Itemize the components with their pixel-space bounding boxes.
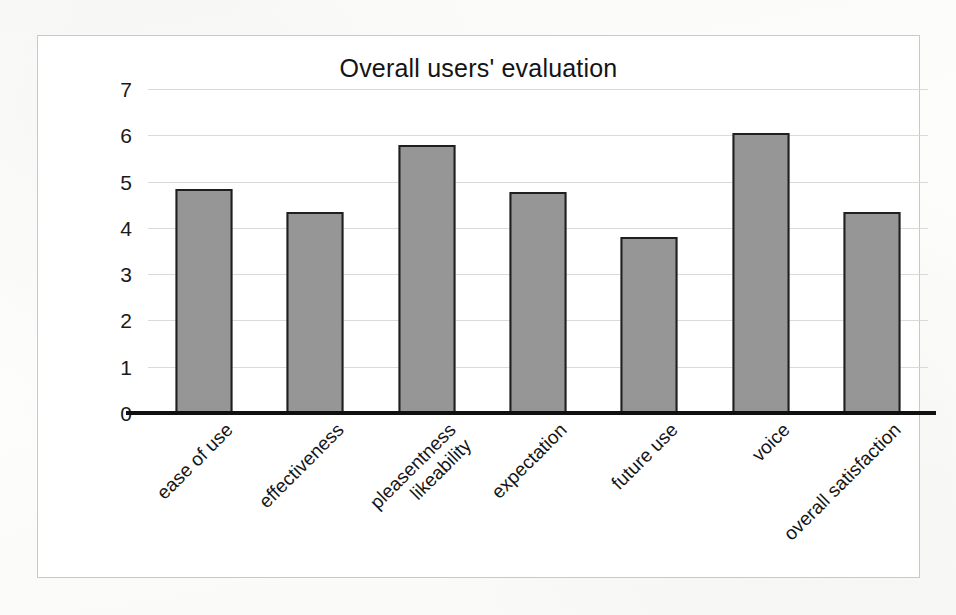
y-axis-tick-label: 3 bbox=[120, 264, 132, 285]
x-axis-category-labels: ease of useeffectivenesspleasentnesslike… bbox=[148, 413, 928, 573]
x-axis-category-label-line: effectiveness bbox=[255, 419, 348, 512]
x-axis-category-label-line: ease of use bbox=[152, 419, 236, 503]
chart-frame: Overall users' evaluation 76543210 ease … bbox=[37, 35, 920, 578]
bar bbox=[621, 237, 678, 413]
bar-slot bbox=[482, 89, 593, 413]
bar-slot bbox=[594, 89, 705, 413]
y-axis-tick-label: 2 bbox=[120, 310, 132, 331]
bar-slot bbox=[817, 89, 928, 413]
x-axis-category-label: voice bbox=[747, 419, 794, 466]
chart-title: Overall users' evaluation bbox=[38, 54, 919, 83]
y-axis-tick-label: 5 bbox=[120, 171, 132, 192]
x-axis-category-label: effectiveness bbox=[255, 419, 349, 513]
bar bbox=[287, 212, 344, 413]
x-axis-category-label: overall satisfaction bbox=[780, 419, 906, 545]
bar bbox=[732, 133, 789, 413]
x-axis-category-label-line: expectation bbox=[487, 419, 571, 503]
x-axis-category-label: ease of use bbox=[152, 419, 237, 504]
bar bbox=[509, 192, 566, 413]
bar-slot bbox=[371, 89, 482, 413]
x-axis-category-label: pleasentnesslikeability bbox=[365, 419, 476, 530]
bar-slot bbox=[705, 89, 816, 413]
y-axis-tick-label: 4 bbox=[120, 217, 132, 238]
bar bbox=[175, 189, 232, 413]
bar-slot bbox=[259, 89, 370, 413]
x-axis-category-label: future use bbox=[608, 419, 684, 495]
x-axis-category-label-line: voice bbox=[747, 419, 793, 465]
x-axis-category-label-line: overall satisfaction bbox=[780, 419, 905, 544]
y-axis-tick-label: 7 bbox=[120, 79, 132, 100]
bar-slot bbox=[148, 89, 259, 413]
bar-series bbox=[148, 89, 928, 413]
x-axis-category-label: expectation bbox=[487, 419, 572, 504]
y-axis-tick-label: 1 bbox=[120, 356, 132, 377]
plot-area: 76543210 bbox=[148, 89, 928, 413]
bar bbox=[844, 212, 901, 413]
x-axis-category-label-line: future use bbox=[608, 419, 683, 494]
bar bbox=[398, 145, 455, 413]
y-axis-tick-label: 6 bbox=[120, 125, 132, 146]
